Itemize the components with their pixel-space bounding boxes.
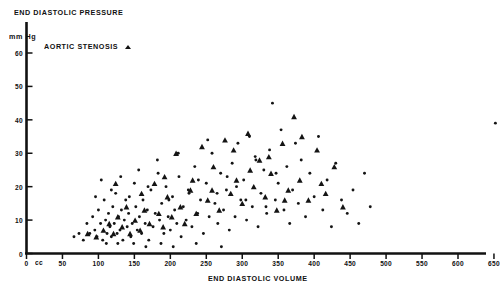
y-tick-label: 30 — [8, 149, 23, 157]
data-point-triangle — [266, 154, 272, 159]
data-point-circle — [236, 142, 239, 145]
data-point-triangle — [228, 191, 234, 196]
data-point-circle — [321, 209, 324, 212]
data-point-circle — [144, 245, 147, 248]
x-tick-label: 500 — [380, 259, 392, 267]
data-point-circle — [154, 212, 157, 215]
data-point-circle — [123, 219, 126, 222]
data-point-circle — [127, 212, 130, 215]
data-point-circle — [235, 185, 238, 188]
data-point-triangle — [234, 177, 240, 182]
data-point-circle — [265, 205, 268, 208]
data-point-circle — [105, 242, 108, 245]
data-point-triangle — [268, 171, 274, 176]
data-point-circle — [132, 242, 135, 245]
data-point-triangle — [318, 181, 324, 186]
data-point-circle — [251, 205, 254, 208]
data-point-circle — [304, 215, 307, 218]
data-point-circle — [116, 232, 119, 235]
data-point-circle — [219, 172, 222, 175]
data-point-triangle — [297, 177, 303, 182]
data-point-circle — [346, 212, 349, 215]
data-point-circle — [330, 225, 333, 228]
data-point-circle — [220, 245, 223, 248]
data-point-circle — [254, 158, 257, 161]
data-point-circle — [114, 192, 117, 195]
data-point-circle — [244, 199, 247, 202]
data-point-circle — [280, 128, 283, 131]
data-point-triangle — [282, 197, 288, 202]
data-point-triangle — [119, 224, 125, 229]
data-point-circle — [216, 192, 219, 195]
data-point-circle — [275, 172, 278, 175]
data-point-circle — [178, 175, 181, 178]
data-point-triangle — [222, 137, 228, 142]
y-tick-label: 10 — [8, 216, 23, 224]
data-point-circle — [245, 219, 248, 222]
data-point-circle — [173, 209, 176, 212]
data-point-triangle — [340, 204, 346, 209]
data-point-circle — [134, 205, 137, 208]
data-point-circle — [271, 102, 274, 105]
data-point-triangle — [124, 204, 130, 209]
data-point-circle — [283, 209, 286, 212]
data-point-circle — [326, 179, 329, 182]
data-point-circle — [260, 192, 263, 195]
data-point-circle — [205, 182, 208, 185]
data-point-triangle — [299, 134, 305, 139]
data-point-triangle — [199, 144, 205, 149]
x-tick-label: 650 — [488, 259, 500, 267]
data-point-triangle — [247, 167, 253, 172]
data-point-triangle — [160, 224, 166, 229]
y-tick-label: 60 — [8, 49, 23, 57]
data-point-circle — [128, 195, 131, 198]
data-point-circle — [165, 185, 168, 188]
data-point-circle — [169, 229, 172, 232]
data-point-circle — [257, 225, 260, 228]
data-point-circle — [357, 222, 360, 225]
data-point-circle — [142, 199, 145, 202]
data-point-circle — [211, 152, 214, 155]
data-point-circle — [234, 215, 237, 218]
data-point-triangle — [251, 184, 257, 189]
y-tick-label: 40 — [8, 116, 23, 124]
data-point-circle — [158, 219, 161, 222]
data-point-circle — [149, 189, 152, 192]
x-tick-label: 400 — [308, 259, 320, 267]
data-point-triangle — [147, 221, 153, 226]
data-point-circle — [268, 148, 271, 151]
data-point-circle — [138, 215, 141, 218]
data-point-circle — [313, 195, 316, 198]
data-point-circle — [160, 202, 163, 205]
x-tick-label: 250 — [200, 259, 212, 267]
data-point-circle — [274, 199, 277, 202]
data-point-circle — [172, 245, 175, 248]
data-point-triangle — [239, 201, 245, 206]
data-point-circle — [208, 215, 211, 218]
data-point-triangle — [280, 141, 286, 146]
data-point-circle — [265, 212, 268, 215]
data-point-circle — [225, 189, 228, 192]
data-point-circle — [369, 205, 372, 208]
data-point-circle — [226, 175, 229, 178]
data-point-circle — [294, 142, 297, 145]
axes — [25, 22, 486, 254]
data-point-triangle — [132, 217, 138, 222]
x-tick-label: 50 — [58, 259, 66, 267]
data-point-triangle — [182, 221, 188, 226]
data-point-circle — [363, 172, 366, 175]
data-point-triangle — [262, 194, 268, 199]
data-point-circle — [157, 172, 160, 175]
data-point-circle — [317, 135, 320, 138]
data-point-triangle — [190, 177, 196, 182]
data-point-circle — [352, 189, 355, 192]
data-point-circle — [197, 179, 200, 182]
data-point-circle — [156, 158, 159, 161]
data-point-circle — [85, 222, 88, 225]
data-point-triangle — [323, 191, 329, 196]
y-tick-label: 50 — [8, 82, 23, 90]
data-point-triangle — [306, 197, 312, 202]
x-tick-label: 350 — [272, 259, 284, 267]
data-series-other — [73, 102, 497, 249]
